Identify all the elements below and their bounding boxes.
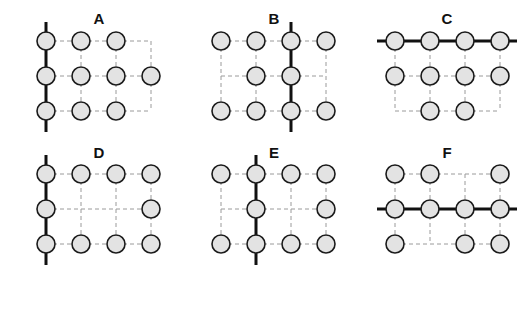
node-circle [386, 67, 404, 85]
dashed-grid [46, 41, 151, 111]
node-circle [72, 165, 90, 183]
node-circle [386, 32, 404, 50]
node-circle [282, 32, 300, 50]
panel-b: B [212, 10, 335, 132]
node-circle [37, 200, 55, 218]
node-circle [491, 67, 509, 85]
panel-label: C [442, 10, 453, 27]
node-circle [456, 67, 474, 85]
node-circle [212, 102, 230, 120]
node-circle [107, 165, 125, 183]
node-circle [317, 165, 335, 183]
node-circle [72, 235, 90, 253]
node-circle [282, 102, 300, 120]
panel-c: C [377, 10, 517, 120]
node-circle [456, 200, 474, 218]
panel-a: A [37, 10, 160, 132]
node-circle [212, 32, 230, 50]
node-circle [386, 165, 404, 183]
node-circle [491, 200, 509, 218]
node-circle [142, 67, 160, 85]
node-circle [282, 235, 300, 253]
node-circle [317, 102, 335, 120]
node-circle [37, 102, 55, 120]
node-circle [282, 165, 300, 183]
node-circle [491, 165, 509, 183]
node-circle [247, 32, 265, 50]
node-circle [317, 200, 335, 218]
node-circle [37, 32, 55, 50]
panel-label: B [269, 10, 280, 27]
node-circle [317, 235, 335, 253]
dashed-grid [221, 174, 326, 244]
node-circle [456, 235, 474, 253]
node-circle [386, 235, 404, 253]
grid-lattice-figure: ABCDEF [0, 0, 531, 318]
panel-label: E [269, 144, 279, 161]
node-circle [421, 165, 439, 183]
node-circle [491, 32, 509, 50]
node-circle [421, 200, 439, 218]
node-circle [142, 200, 160, 218]
node-circle [491, 235, 509, 253]
node-circle [421, 102, 439, 120]
node-circle [72, 102, 90, 120]
node-circle [107, 67, 125, 85]
node-circle [37, 67, 55, 85]
node-circle [421, 67, 439, 85]
node-circle [37, 165, 55, 183]
panel-label: A [94, 10, 105, 27]
node-circle [317, 32, 335, 50]
panel-label: F [442, 144, 451, 161]
node-circle [282, 67, 300, 85]
node-circle [212, 165, 230, 183]
node-circle [37, 235, 55, 253]
node-circle [456, 32, 474, 50]
panel-label: D [94, 144, 105, 161]
node-circle [421, 32, 439, 50]
node-circle [212, 235, 230, 253]
panel-d: D [37, 144, 160, 265]
node-circle [72, 32, 90, 50]
node-circle [247, 235, 265, 253]
node-circle [247, 102, 265, 120]
panel-f: F [377, 144, 517, 253]
node-circle [107, 32, 125, 50]
panel-e: E [212, 144, 335, 265]
node-circle [456, 102, 474, 120]
node-circle [107, 102, 125, 120]
dashed-grid [395, 41, 500, 111]
node-circle [72, 67, 90, 85]
node-circle [142, 165, 160, 183]
node-circle [247, 200, 265, 218]
node-circle [247, 165, 265, 183]
dashed-grid [221, 41, 326, 111]
node-circle [247, 67, 265, 85]
node-circle [107, 235, 125, 253]
node-circle [142, 235, 160, 253]
dashed-grid [46, 174, 151, 244]
node-circle [386, 200, 404, 218]
